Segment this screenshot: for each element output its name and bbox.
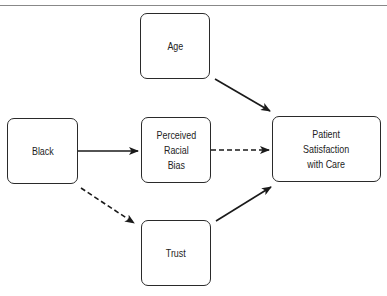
node-trust: Trust <box>141 220 211 286</box>
edge-black-trust <box>81 188 134 223</box>
node-perceived-racial-bias: Perceived Racial Bias <box>141 117 211 183</box>
edge-age-satisfaction <box>215 79 270 111</box>
node-bias-label: Perceived Racial Bias <box>156 128 196 173</box>
node-age: Age <box>140 13 210 79</box>
node-age-label: Age <box>167 39 183 54</box>
node-satisfaction-label: Patient Satisfaction with Care <box>303 127 349 172</box>
edge-trust-satisfaction <box>216 187 271 221</box>
node-black-label: Black <box>32 144 54 159</box>
node-black: Black <box>7 118 78 184</box>
node-trust-label: Trust <box>166 246 186 261</box>
node-patient-satisfaction: Patient Satisfaction with Care <box>272 116 381 182</box>
